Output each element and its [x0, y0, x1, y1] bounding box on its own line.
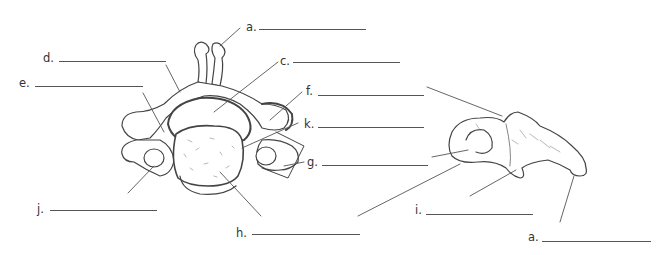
answer-blank-a-bottom[interactable] [542, 241, 651, 242]
answer-blank-e[interactable] [35, 86, 143, 87]
label-j: j. [37, 203, 44, 215]
answer-blank-f[interactable] [318, 95, 424, 96]
label-a-bottom: a. [528, 231, 539, 243]
label-a-top: a. [246, 21, 257, 33]
answer-blank-i[interactable] [426, 214, 533, 215]
lateral-view-vertebra [449, 112, 586, 178]
label-k: k. [304, 118, 314, 130]
label-h: h. [236, 227, 247, 239]
answer-blank-h[interactable] [252, 234, 360, 235]
label-c: c. [280, 55, 290, 67]
answer-blank-c[interactable] [293, 62, 400, 63]
label-f: f. [306, 85, 313, 97]
answer-blank-j[interactable] [50, 210, 157, 211]
answer-blank-a-top[interactable] [259, 29, 366, 30]
transverse-foramen-left [144, 149, 164, 167]
label-d: d. [43, 52, 54, 64]
answer-blank-d[interactable] [59, 61, 166, 62]
answer-blank-g[interactable] [322, 165, 428, 166]
spinous-process [194, 42, 209, 84]
transverse-foramen-right [256, 147, 276, 165]
vertebral-body [173, 126, 243, 186]
label-i: i. [415, 204, 422, 216]
label-g: g. [307, 156, 318, 168]
answer-blank-k[interactable] [318, 127, 424, 128]
label-e: e. [19, 77, 30, 89]
